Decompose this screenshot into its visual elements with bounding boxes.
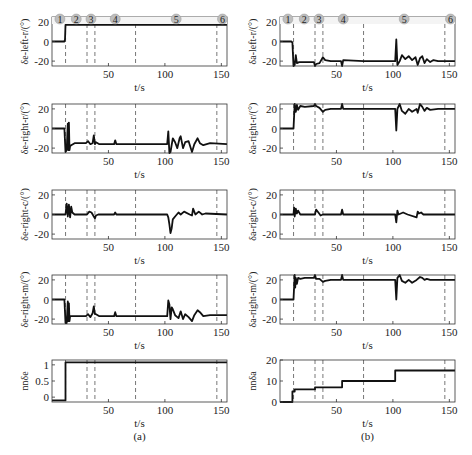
x-tick-label: 50 (331, 326, 343, 338)
axes-frame (280, 104, 455, 153)
subplot-a1: -2002050100150t/sδe-left-r/(°)123456 (19, 14, 230, 94)
phase-label: 6 (448, 14, 453, 25)
data-line (280, 371, 455, 403)
x-tick-label: 150 (213, 404, 230, 416)
subplot-b3: -2002050100150t/sδa-right-c/(°) (247, 188, 458, 266)
y-tick-label: -20 (34, 55, 49, 67)
data-line (280, 40, 455, 67)
x-tick-label: 100 (157, 404, 174, 416)
x-axis-label: t/s (362, 81, 372, 93)
x-tick-label: 100 (385, 68, 402, 80)
x-tick-label: 100 (385, 241, 402, 253)
phase-label: 2 (74, 14, 79, 25)
y-axis-label: δe-right-m/(°) (19, 272, 31, 328)
phase-label: 3 (316, 14, 321, 25)
x-tick-label: 50 (103, 241, 115, 253)
x-tick-label: 150 (441, 241, 458, 253)
x-tick-label: 50 (331, 68, 343, 80)
x-axis-label: t/s (362, 254, 372, 266)
x-axis-label: t/s (134, 417, 144, 429)
y-tick-label: 0 (44, 36, 50, 48)
y-tick-label: 0 (44, 209, 50, 221)
y-axis-label: δe-right-r/(°) (19, 103, 31, 154)
phase-label: 1 (285, 14, 290, 25)
y-tick-label: -20 (262, 228, 277, 240)
phase-label: 5 (174, 14, 179, 25)
y-tick-label: 0 (44, 294, 50, 306)
caption-b: (b) (361, 430, 374, 443)
phase-label: 1 (57, 14, 62, 25)
x-tick-label: 50 (331, 155, 343, 167)
x-tick-label: 50 (103, 68, 115, 80)
y-tick-label: 0 (272, 36, 278, 48)
caption-a: (a) (133, 430, 146, 443)
y-tick-label: 20 (38, 189, 50, 201)
x-tick-label: 150 (441, 68, 458, 80)
axes-frame (280, 275, 455, 324)
subplot-a2: -2002050100150t/sδe-right-r/(°) (19, 103, 230, 180)
figure-canvas: -2002050100150t/sδe-left-r/(°)123456-200… (0, 0, 472, 455)
y-tick-label: -20 (262, 55, 277, 67)
y-tick-label: 0 (272, 396, 278, 408)
y-tick-label: 20 (266, 189, 278, 201)
x-axis-label: t/s (134, 168, 144, 180)
x-tick-label: 100 (157, 68, 174, 80)
x-axis-label: t/s (362, 417, 372, 429)
x-tick-label: 100 (157, 155, 174, 167)
x-axis-label: t/s (362, 168, 372, 180)
y-axis-label: δa-left-r/(°) (247, 19, 259, 65)
x-axis-label: t/s (362, 339, 372, 351)
x-tick-label: 150 (441, 404, 458, 416)
y-tick-label: 0 (272, 294, 278, 306)
y-tick-label: -20 (34, 142, 49, 154)
y-tick-label: 0 (272, 209, 278, 221)
subplot-b1: -2002050100150t/sδa-left-r/(°)123456 (247, 14, 458, 94)
y-axis-label: δa-right-r/(°) (247, 103, 259, 154)
subplot-b4: -2002050100150t/sδa-right-m/(°) (247, 272, 458, 351)
x-axis-label: t/s (134, 254, 144, 266)
y-axis-label: nnδa (247, 371, 258, 391)
x-tick-label: 150 (441, 326, 458, 338)
y-tick-label: 20 (38, 274, 50, 286)
x-tick-label: 150 (213, 241, 230, 253)
y-axis-label: δe-right-c/(°) (19, 188, 31, 241)
x-tick-label: 50 (331, 404, 343, 416)
y-tick-label: 20 (266, 354, 278, 366)
axes-frame (52, 360, 227, 402)
phase-label: 3 (88, 14, 93, 25)
x-tick-label: 150 (213, 68, 230, 80)
x-tick-label: 50 (103, 326, 115, 338)
data-line (280, 275, 455, 300)
x-tick-label: 100 (385, 326, 402, 338)
subplot-a4: -2002050100150t/sδe-right-m/(°) (19, 272, 230, 351)
x-tick-label: 50 (103, 404, 115, 416)
y-axis-label: δa-right-m/(°) (247, 272, 259, 328)
y-tick-label: 0 (44, 391, 50, 403)
phase-label: 5 (402, 14, 407, 25)
y-tick-label: 20 (38, 16, 50, 28)
axes-frame (52, 104, 227, 153)
subplot-b2: -2002050100150t/sδa-right-r/(°) (247, 103, 458, 180)
x-tick-label: 100 (385, 155, 402, 167)
phase-label: 6 (220, 14, 225, 25)
y-tick-label: -20 (34, 313, 49, 325)
x-tick-label: 100 (385, 404, 402, 416)
data-line (52, 25, 227, 42)
phase-label: 2 (302, 14, 307, 25)
x-tick-label: 100 (157, 241, 174, 253)
x-tick-label: 150 (213, 326, 230, 338)
y-tick-label: 0 (44, 123, 50, 135)
y-axis-label: δa-right-c/(°) (247, 188, 259, 241)
data-line (280, 208, 455, 223)
data-line (52, 123, 227, 153)
y-axis-label: δe-left-r/(°) (19, 19, 31, 65)
subplot-a5: 00.5150100150t/snnδe (19, 359, 230, 429)
subplot-b5: 0102050100150t/snnδa (247, 354, 458, 429)
x-axis-label: t/s (134, 339, 144, 351)
y-tick-label: 0 (272, 123, 278, 135)
x-tick-label: 50 (331, 241, 343, 253)
data-line (52, 300, 227, 324)
phase-label: 4 (113, 14, 118, 25)
x-tick-label: 150 (441, 155, 458, 167)
y-tick-label: 1 (44, 359, 50, 371)
